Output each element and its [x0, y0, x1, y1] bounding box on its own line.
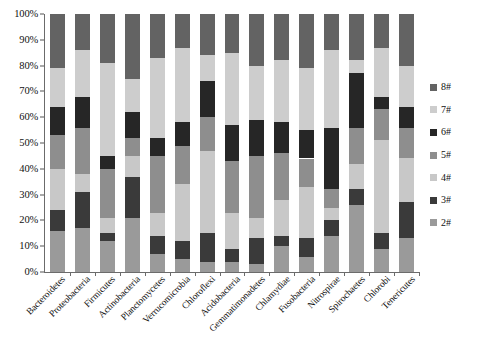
bar-segment-5 — [200, 117, 215, 151]
bar-segment-8 — [150, 14, 165, 58]
legend-label: 4# — [441, 173, 451, 183]
bar-segment-8 — [299, 14, 314, 68]
bar-segment-7 — [75, 50, 90, 96]
bar-segment-8 — [50, 14, 65, 68]
bar-segment-7 — [249, 66, 264, 120]
bar-nitrospirae — [324, 14, 339, 272]
bar-segment-7 — [125, 79, 140, 113]
bar-segment-6 — [150, 138, 165, 156]
legend-label: 7# — [441, 105, 451, 115]
bar-segment-6 — [299, 130, 314, 158]
y-axis-tick-label: 0% — [24, 267, 38, 278]
y-axis-tick-label: 80% — [19, 60, 38, 71]
bar-segment-7 — [374, 48, 389, 97]
bar-segment-4 — [274, 200, 289, 236]
bar-bacteroidetes — [50, 14, 65, 272]
legend-item-3[interactable]: 3# — [430, 189, 482, 212]
bar-segment-6 — [374, 97, 389, 110]
legend-item-5[interactable]: 5# — [430, 144, 482, 167]
bar-segment-6 — [75, 97, 90, 128]
bar-segment-7 — [150, 58, 165, 138]
bar-segment-8 — [125, 14, 140, 79]
bar-planctomycetes — [150, 14, 165, 272]
bar-segment-6 — [349, 73, 364, 127]
legend-item-7[interactable]: 7# — [430, 99, 482, 122]
bar-segment-8 — [274, 14, 289, 60]
y-axis-tick-label: 100% — [14, 9, 38, 20]
bar-actinobacteria — [125, 14, 140, 272]
bar-gemmatimonadetes — [249, 14, 264, 272]
legend-item-8[interactable]: 8# — [430, 76, 482, 99]
bar-segment-8 — [324, 14, 339, 50]
bar-segment-4 — [249, 218, 264, 239]
bar-segment-6 — [50, 107, 65, 135]
legend-label: 3# — [441, 195, 451, 205]
bar-segment-7 — [349, 60, 364, 73]
legend-item-2[interactable]: 2# — [430, 212, 482, 235]
bar-segment-7 — [175, 48, 190, 123]
bar-segment-5 — [50, 135, 65, 169]
bar-segment-8 — [200, 14, 215, 55]
bar-segment-4 — [324, 208, 339, 221]
bar-segment-8 — [249, 14, 264, 66]
y-axis-tick-label: 30% — [19, 189, 38, 200]
bar-segment-3 — [349, 189, 364, 204]
bar-segment-8 — [175, 14, 190, 48]
bar-segment-4 — [200, 151, 215, 234]
bar-firmicutes — [100, 14, 115, 272]
bar-segment-5 — [100, 169, 115, 218]
bar-segment-5 — [249, 156, 264, 218]
bar-proteobacteria — [75, 14, 90, 272]
bar-segment-3 — [75, 192, 90, 228]
bar-segment-8 — [75, 14, 90, 50]
bar-segment-5 — [175, 146, 190, 185]
chart-legend: 8#7#6#5#4#3#2# — [430, 76, 482, 234]
bar-segment-8 — [100, 14, 115, 63]
bar-segment-5 — [349, 128, 364, 164]
legend-label: 6# — [441, 127, 451, 137]
bar-segment-4 — [150, 213, 165, 236]
legend-swatch-icon — [430, 174, 437, 181]
bar-chlorobi — [374, 14, 389, 272]
bar-segment-2 — [50, 231, 65, 272]
y-axis-tick-label: 90% — [19, 35, 38, 46]
legend-swatch-icon — [430, 219, 437, 226]
bar-segment-5 — [75, 128, 90, 174]
bar-segment-4 — [50, 169, 65, 210]
legend-swatch-icon — [430, 152, 437, 159]
y-axis-tick-label: 10% — [19, 241, 38, 252]
bar-segment-3 — [50, 210, 65, 231]
bar-segment-4 — [75, 174, 90, 192]
bar-segment-6 — [175, 122, 190, 145]
bar-segment-7 — [225, 53, 240, 125]
legend-item-6[interactable]: 6# — [430, 121, 482, 144]
x-axis: BacteroidetesProteobacteriaFirmicutesAct… — [44, 274, 424, 351]
bar-segment-7 — [274, 60, 289, 122]
legend-label: 5# — [441, 150, 451, 160]
stacked-bar-chart: 0%10%20%30%40%50%60%70%80%90%100% Bacter… — [0, 0, 483, 351]
bar-segment-4 — [349, 164, 364, 190]
y-axis-tick-label: 50% — [19, 138, 38, 149]
legend-swatch-icon — [430, 197, 437, 204]
bar-segment-4 — [175, 184, 190, 241]
bar-segment-6 — [249, 120, 264, 156]
bar-segment-5 — [324, 189, 339, 207]
y-axis-tick-label: 20% — [19, 215, 38, 226]
y-axis-tick-label: 70% — [19, 86, 38, 97]
bar-segment-5 — [299, 159, 314, 187]
legend-item-4[interactable]: 4# — [430, 166, 482, 189]
bar-segment-3 — [324, 220, 339, 235]
legend-swatch-icon — [430, 129, 437, 136]
bar-segment-6 — [324, 128, 339, 190]
bar-segment-7 — [100, 63, 115, 156]
bar-segment-5 — [150, 156, 165, 213]
bar-segment-4 — [125, 156, 140, 177]
bar-tenericutes — [399, 14, 414, 272]
bar-segment-5 — [399, 128, 414, 159]
bar-segment-5 — [125, 138, 140, 156]
bar-segment-5 — [374, 109, 389, 140]
bar-segment-6 — [125, 112, 140, 138]
bar-spirochaetes — [349, 14, 364, 272]
bar-segment-3 — [125, 177, 140, 218]
legend-label: 2# — [441, 218, 451, 228]
